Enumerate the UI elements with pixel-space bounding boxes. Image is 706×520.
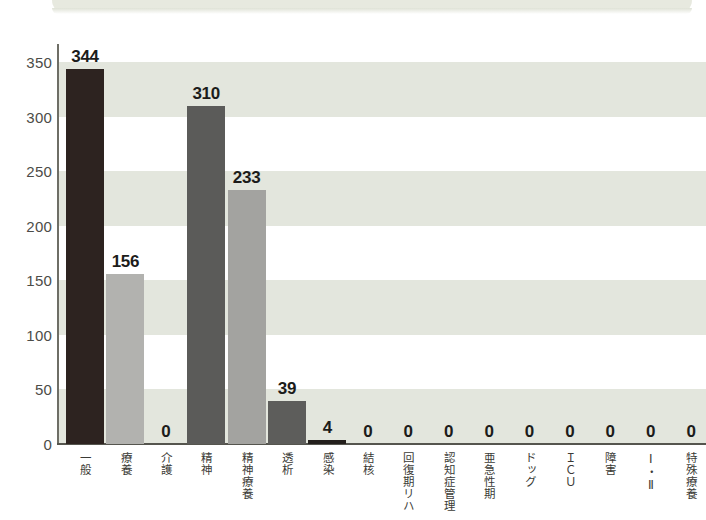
category-label-精神: 精神 [185, 452, 227, 518]
category-label-介護: 介護 [145, 452, 187, 518]
y-axis-tick-labels: 350 300 250 200 150 100 50 0 [0, 0, 52, 520]
category-label-結核: 結核 [347, 452, 389, 518]
category-label-ＩＣＵ: ＩＣＵ [549, 452, 591, 518]
category-label-感染: 感染 [306, 452, 348, 518]
category-label-回復期リハ: 回復期リハ [387, 452, 429, 518]
y-tick-50: 50 [6, 381, 52, 398]
category-label-一般: 一般 [64, 452, 106, 518]
category-label-特殊療養: 特殊療養 [670, 452, 706, 518]
category-label-療養: 療養 [104, 452, 146, 518]
category-label-透析: 透析 [266, 452, 308, 518]
category-label-ドッグ: ドッグ [508, 452, 550, 518]
y-tick-150: 150 [6, 272, 52, 289]
y-tick-300: 300 [6, 109, 52, 126]
category-label-精神療養: 精神療養 [226, 452, 268, 518]
y-tick-100: 100 [6, 327, 52, 344]
y-tick-200: 200 [6, 218, 52, 235]
y-tick-350: 350 [6, 54, 52, 71]
category-label-認知症管理: 認知症管理 [428, 452, 470, 518]
category-label-亜急性期: 亜急性期 [468, 452, 510, 518]
y-tick-0: 0 [6, 436, 52, 453]
category-label-障害: 障害 [589, 452, 631, 518]
y-tick-250: 250 [6, 163, 52, 180]
category-label-Ⅰ・Ⅱ: Ⅰ・Ⅱ [630, 452, 672, 518]
bar-chart: 350 300 250 200 150 100 50 0 34415603102… [0, 0, 706, 520]
category-labels-layer: 一般療養介護精神精神療養透析感染結核回復期リハ認知症管理亜急性期ドッグＩＣＵ障害… [58, 0, 706, 520]
